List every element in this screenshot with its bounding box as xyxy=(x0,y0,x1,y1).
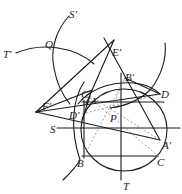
label-q: Q xyxy=(45,39,53,50)
label-t-prime: T' xyxy=(3,49,11,60)
arc-t-prime xyxy=(16,47,94,64)
label-s: S xyxy=(50,124,56,135)
label-t: T xyxy=(123,181,129,192)
label-d: D xyxy=(161,89,169,100)
label-a-prime: A' xyxy=(162,140,171,151)
dashed-c-prime-a-prime xyxy=(90,96,160,140)
label-f-prime: F' xyxy=(42,101,51,112)
label-b-prime: B' xyxy=(125,72,134,83)
label-b: B xyxy=(77,158,84,169)
label-s-prime: S' xyxy=(69,9,77,20)
label-d-prime: D' xyxy=(69,110,79,121)
label-p: P xyxy=(110,113,117,124)
label-a: A xyxy=(91,97,97,106)
label-e-prime: E' xyxy=(112,47,121,58)
label-c: C xyxy=(157,157,164,168)
arc-s-prime xyxy=(53,16,70,104)
label-c-prime: C' xyxy=(81,89,91,100)
